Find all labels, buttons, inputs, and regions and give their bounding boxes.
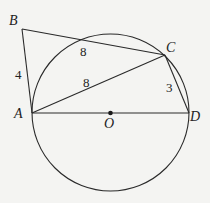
geometry-diagram: B A C D O 4 8 8 3: [0, 0, 210, 203]
center-point-O: [108, 111, 113, 116]
label-D: D: [189, 109, 200, 124]
length-AB: 4: [15, 67, 22, 82]
length-BC: 8: [80, 44, 87, 59]
length-CD: 3: [166, 80, 173, 95]
segment-AC: [32, 55, 165, 113]
length-AC: 8: [83, 75, 90, 90]
label-A: A: [13, 106, 23, 121]
label-C: C: [166, 40, 176, 55]
segment-BC: [22, 29, 165, 55]
segment-AB: [22, 29, 32, 113]
label-B: B: [9, 13, 18, 28]
label-O: O: [104, 116, 114, 131]
